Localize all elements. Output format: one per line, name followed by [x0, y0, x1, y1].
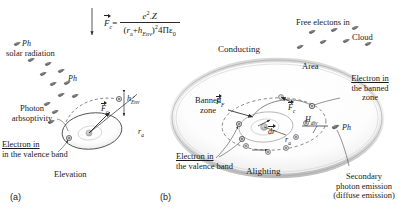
r-a-label-a: ra: [138, 128, 144, 138]
secondary-line3: (diffuse emission): [333, 190, 394, 200]
conducting-label: Conducting: [218, 44, 260, 54]
free-electrons-label: Free electons in: [296, 18, 350, 28]
secondary-emission-label: Secondary photon emission (diffuse emiss…: [320, 172, 408, 201]
figure-caption-b: (b): [160, 192, 171, 202]
force-c-label-b: Fc: [288, 104, 295, 114]
photon-label-mid-a: Ph: [68, 75, 77, 84]
elevation-label: Elevation: [54, 170, 87, 180]
electron-banned-zone-label: Electron in the banned zone: [340, 74, 400, 103]
h-env-label-a: hEnv: [127, 95, 139, 105]
photon-absorptivity-label: Photon arbsoptivity: [6, 104, 58, 123]
electron-banned-line2: the banned: [351, 83, 388, 93]
electron-valence-core-a: [68, 137, 70, 139]
r-a-label-b: ra: [285, 136, 291, 146]
photon-label-b: Ph: [342, 124, 351, 133]
coulomb-force-formula: Fc= e2.Z (ra+hEnv)24Πε0: [104, 10, 180, 38]
formula-den-tail-sub: 0: [173, 31, 176, 37]
formula-fraction: e2.Z (ra+hEnv)24Πε0: [120, 10, 180, 38]
electron-valence-line2-a: in the valence band: [2, 149, 68, 159]
dr-label-b: dr: [268, 128, 275, 137]
electron-banned-core-b: [311, 105, 313, 107]
force-f-label-b: FF: [216, 98, 224, 108]
solar-radiation-label: solar radiation: [6, 49, 55, 59]
electron-valence-label-b: Electron in the valence band: [176, 152, 233, 171]
force-c-label-a: Fc: [101, 105, 108, 115]
h-div-label-b: Hdiv: [305, 116, 317, 126]
formula-lhs: F: [104, 18, 110, 28]
formula-den-h-sub: Env: [142, 31, 152, 37]
photon-absorptivity-line1: Photon: [20, 103, 44, 113]
figure-root: Fc= e2.Z (ra+hEnv)24Πε0 Ph solar radiati…: [0, 0, 412, 219]
electron-valence-line1-b: Electron in: [176, 151, 214, 161]
alighting-label: Alighting: [246, 166, 281, 176]
electron-valence-label-a: Electron in in the valence band: [2, 140, 68, 159]
cloud-label: Cloud: [352, 33, 373, 43]
formula-num-Z: Z: [152, 11, 157, 21]
banned-zone-line2: zone: [200, 105, 216, 115]
electron-core-a: [118, 98, 120, 100]
photon-absorptivity-line2: arbsoptivity: [12, 113, 53, 123]
formula-den-tail: 4Πε: [158, 25, 173, 35]
formula-equals: =: [112, 18, 117, 28]
electron-valence-line1-a: Electron in: [2, 139, 40, 149]
electron-banned-line3: zone: [362, 92, 378, 102]
figure-caption-a: (a): [10, 192, 21, 202]
secondary-line2: photon emission: [336, 181, 392, 191]
electron-banned-line1: Electron in: [351, 73, 389, 83]
area-label: Area: [302, 62, 319, 72]
secondary-line1: Secondary: [346, 171, 382, 181]
electron-valence-line2-b: the valence band: [176, 161, 233, 171]
